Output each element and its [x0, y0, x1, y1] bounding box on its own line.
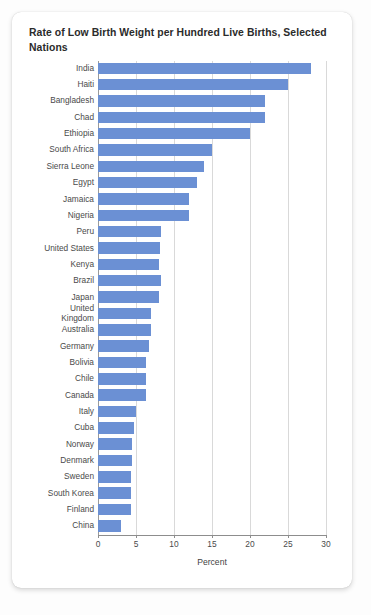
y-axis-label: Haiti	[12, 80, 94, 89]
x-tick-label: 20	[245, 539, 254, 549]
bar-row	[98, 94, 326, 110]
bar	[98, 373, 146, 385]
bar	[98, 242, 160, 254]
y-axis-label: Jamaica	[12, 195, 94, 204]
y-axis-label: Chad	[12, 113, 94, 122]
bar-row	[98, 470, 326, 486]
y-axis-label: Chile	[12, 374, 94, 383]
x-tick-label: 15	[207, 539, 216, 549]
y-axis-label: China	[12, 521, 94, 530]
bar-row	[98, 388, 326, 404]
bar	[98, 504, 131, 516]
bar-row	[98, 339, 326, 355]
y-axis-label: India	[12, 64, 94, 73]
x-tick-mark	[326, 535, 327, 538]
bar-row	[98, 290, 326, 306]
bar	[98, 95, 265, 107]
y-axis-label: Bangladesh	[12, 96, 94, 105]
bar	[98, 144, 212, 156]
bar-row	[98, 257, 326, 273]
bar-row	[98, 355, 326, 371]
x-tick-label: 10	[169, 539, 178, 549]
y-axis-label: Sierra Leone	[12, 162, 94, 171]
bar	[98, 128, 250, 140]
y-axis-label: South Korea	[12, 489, 94, 498]
screenshot-root: Rate of Low Birth Weight per Hundred Liv…	[0, 0, 371, 615]
bar-row	[98, 241, 326, 257]
bar	[98, 308, 151, 320]
y-axis-label: United Kingdom	[12, 304, 94, 323]
x-axis-ticks: 051015202530	[98, 535, 326, 549]
bar	[98, 340, 149, 352]
bar-series	[98, 61, 326, 535]
bar-row	[98, 192, 326, 208]
bar	[98, 210, 189, 222]
y-axis-label: Cuba	[12, 423, 94, 432]
bar-row	[98, 175, 326, 191]
x-tick-label: 30	[321, 539, 330, 549]
bar	[98, 177, 197, 189]
y-axis-label: Nigeria	[12, 211, 94, 220]
x-tick-mark	[288, 535, 289, 538]
bar	[98, 63, 311, 75]
x-tick-label: 0	[96, 539, 101, 549]
y-axis-label: Norway	[12, 440, 94, 449]
bar-row	[98, 77, 326, 93]
chart-card: Rate of Low Birth Weight per Hundred Liv…	[12, 12, 352, 588]
y-axis-labels: IndiaHaitiBangladeshChadEthiopiaSouth Af…	[12, 61, 94, 535]
x-tick-mark	[136, 535, 137, 538]
y-axis-label: Kenya	[12, 260, 94, 269]
bar	[98, 438, 132, 450]
bar-row	[98, 519, 326, 535]
bar-row	[98, 110, 326, 126]
bar-row	[98, 453, 326, 469]
bar	[98, 259, 159, 271]
x-tick-mark	[250, 535, 251, 538]
x-tick-label: 5	[134, 539, 139, 549]
bar-row	[98, 486, 326, 502]
bar-row	[98, 421, 326, 437]
bar-row	[98, 126, 326, 142]
bar	[98, 193, 189, 205]
y-axis-label: Sweden	[12, 472, 94, 481]
bar	[98, 226, 161, 238]
bar	[98, 161, 204, 173]
y-axis-label: Peru	[12, 227, 94, 236]
y-axis-label: Ethiopia	[12, 129, 94, 138]
y-axis-label: Denmark	[12, 456, 94, 465]
bar	[98, 455, 132, 467]
bar	[98, 487, 131, 499]
bar	[98, 406, 136, 418]
bar-row	[98, 273, 326, 289]
y-axis-label: Bolivia	[12, 358, 94, 367]
bar-row	[98, 159, 326, 175]
bar	[98, 520, 121, 532]
bar-row	[98, 143, 326, 159]
y-axis-label: Canada	[12, 391, 94, 400]
y-axis-label: Egypt	[12, 178, 94, 187]
y-axis-label: Germany	[12, 342, 94, 351]
y-axis-label: South Africa	[12, 145, 94, 154]
x-tick-mark	[212, 535, 213, 538]
bar-row	[98, 437, 326, 453]
x-tick-mark	[174, 535, 175, 538]
chart-title: Rate of Low Birth Weight per Hundred Liv…	[29, 26, 335, 55]
bar	[98, 275, 161, 287]
gridline-30	[326, 61, 327, 535]
bar-row	[98, 224, 326, 240]
bar	[98, 112, 265, 124]
x-tick-mark	[98, 535, 99, 538]
bar-row	[98, 306, 326, 322]
bar	[98, 422, 134, 434]
y-axis-label: Japan	[12, 293, 94, 302]
bar	[98, 324, 151, 336]
y-axis-label: United States	[12, 244, 94, 253]
x-axis-title: Percent	[98, 557, 326, 567]
bar	[98, 471, 131, 483]
y-axis-label: Finland	[12, 505, 94, 514]
y-axis-label: Australia	[12, 325, 94, 334]
bar-row	[98, 372, 326, 388]
bar-row	[98, 323, 326, 339]
bar-row	[98, 502, 326, 518]
bar	[98, 357, 146, 369]
